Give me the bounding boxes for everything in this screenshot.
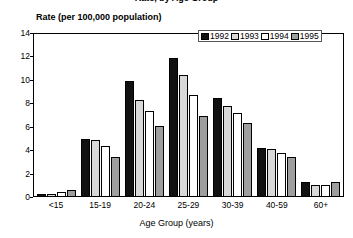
bars-layer bbox=[34, 34, 343, 197]
y-axis-tick-mark bbox=[30, 56, 33, 57]
y-axis-tick-label: 6 bbox=[8, 122, 30, 132]
legend-label: 1992 bbox=[210, 32, 229, 40]
legend: 1992199319941995 bbox=[198, 30, 322, 42]
bar-group bbox=[166, 34, 210, 197]
x-axis-tick-label: 60+ bbox=[299, 200, 343, 210]
bar-group bbox=[78, 34, 122, 197]
y-axis-tick-mark bbox=[30, 150, 33, 151]
legend-label: 1995 bbox=[300, 32, 319, 40]
bar bbox=[101, 146, 110, 197]
y-axis-tick-label: 10 bbox=[8, 75, 30, 85]
bar bbox=[311, 185, 320, 197]
bar bbox=[57, 192, 66, 197]
bar bbox=[169, 58, 178, 197]
bar bbox=[321, 185, 330, 197]
y-axis-label: Rate (per 100,000 population) bbox=[36, 12, 162, 22]
y-axis-tick-mark bbox=[30, 127, 33, 128]
y-axis-tick-label: 12 bbox=[8, 51, 30, 61]
bar bbox=[47, 194, 56, 197]
bar bbox=[233, 113, 242, 197]
y-axis: 02468101214 bbox=[0, 0, 30, 238]
y-axis-tick-mark bbox=[30, 33, 33, 34]
legend-label: 1994 bbox=[270, 32, 289, 40]
chart-title-cropped: Rate, by Age Group bbox=[0, 0, 353, 7]
bar bbox=[67, 190, 76, 197]
bar bbox=[243, 123, 252, 198]
bar bbox=[277, 153, 286, 197]
y-axis-tick-label: 0 bbox=[8, 192, 30, 202]
y-axis-tick-mark bbox=[30, 80, 33, 81]
bar bbox=[155, 126, 164, 197]
bar bbox=[223, 106, 232, 197]
bar bbox=[179, 75, 188, 197]
x-axis-tick-label: 40-59 bbox=[255, 200, 299, 210]
bar bbox=[301, 182, 310, 197]
y-axis-tick-label: 14 bbox=[8, 28, 30, 38]
x-axis-tick-label: 25-29 bbox=[166, 200, 210, 210]
x-axis-label: Age Group (years) bbox=[0, 218, 353, 228]
bar-chart: Rate, by Age Group Rate (per 100,000 pop… bbox=[0, 0, 353, 238]
legend-swatch bbox=[261, 33, 269, 40]
y-axis-tick-mark bbox=[30, 174, 33, 175]
x-axis: <1515-1920-2425-2930-3940-5960+ bbox=[34, 200, 343, 210]
bar bbox=[135, 100, 144, 197]
bar bbox=[37, 194, 46, 197]
y-axis-tick-mark bbox=[30, 103, 33, 104]
legend-swatch bbox=[231, 33, 239, 40]
legend-item: 1993 bbox=[231, 32, 259, 40]
x-axis-tick-label: <15 bbox=[34, 200, 78, 210]
legend-item: 1994 bbox=[261, 32, 289, 40]
bar bbox=[213, 98, 222, 197]
bar-group bbox=[211, 34, 255, 197]
bar-group bbox=[299, 34, 343, 197]
x-axis-tick-label: 15-19 bbox=[78, 200, 122, 210]
bar bbox=[287, 157, 296, 197]
bar bbox=[257, 148, 266, 197]
bar-group bbox=[122, 34, 166, 197]
y-axis-tick-label: 8 bbox=[8, 98, 30, 108]
y-axis-tick-label: 4 bbox=[8, 145, 30, 155]
bar-group bbox=[255, 34, 299, 197]
bar bbox=[111, 157, 120, 197]
x-axis-tick-label: 30-39 bbox=[211, 200, 255, 210]
bar bbox=[199, 116, 208, 198]
bar bbox=[125, 81, 134, 197]
bar bbox=[189, 95, 198, 197]
chart-title: Rate, by Age Group bbox=[0, 0, 353, 3]
legend-item: 1992 bbox=[201, 32, 229, 40]
bar bbox=[91, 140, 100, 197]
y-axis-tick-mark bbox=[30, 197, 33, 198]
x-axis-tick-label: 20-24 bbox=[122, 200, 166, 210]
bar bbox=[81, 139, 90, 197]
legend-item: 1995 bbox=[291, 32, 319, 40]
legend-label: 1993 bbox=[240, 32, 259, 40]
legend-swatch bbox=[201, 33, 209, 40]
y-axis-tick-label: 2 bbox=[8, 169, 30, 179]
bar bbox=[331, 182, 340, 197]
legend-swatch bbox=[291, 33, 299, 40]
bar bbox=[145, 111, 154, 197]
bar-group bbox=[34, 34, 78, 197]
bar bbox=[267, 149, 276, 197]
